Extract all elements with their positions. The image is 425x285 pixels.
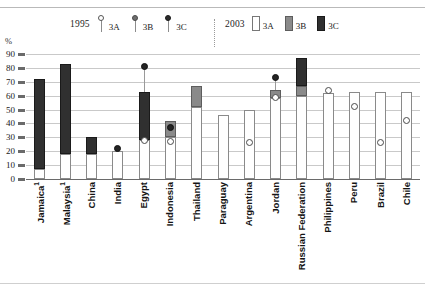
bar-segment-3A — [86, 154, 97, 179]
legend-group-2003: 2003 3A 3B 3C — [225, 9, 350, 38]
y-tick-mark-50 — [18, 109, 25, 112]
data-point-p1995_3A[interactable] — [272, 94, 279, 101]
x-label-china: China — [87, 182, 97, 208]
bottom-divider — [0, 283, 425, 284]
bar-china[interactable] — [86, 54, 97, 179]
bar-segment-3A — [139, 140, 150, 179]
bar-paraguay[interactable] — [218, 54, 229, 179]
bar-brazil[interactable] — [375, 54, 386, 179]
x-label-paraguay: Paraguay — [218, 182, 228, 225]
legend-item-1995-3C[interactable]: 3C — [164, 15, 187, 32]
bar-jamaica[interactable] — [34, 54, 45, 179]
bar-segment-3A — [296, 96, 307, 179]
y-tick-label-40: 40 — [0, 119, 15, 128]
bar-malaysia[interactable] — [60, 54, 71, 179]
bar-segment-3A — [60, 154, 71, 179]
y-tick-mark-20 — [18, 150, 25, 153]
open-circle-icon — [97, 15, 106, 32]
bar-russianfederation[interactable] — [296, 54, 307, 179]
bar-philippines[interactable] — [323, 54, 334, 179]
legend-item-1995-3B[interactable]: 3B — [131, 15, 154, 32]
bar-segment-3C — [139, 92, 150, 141]
y-tick-mark-60 — [18, 95, 25, 98]
legend-item-2003-3B[interactable]: 3B — [285, 16, 307, 31]
bar-segment-3B — [296, 86, 307, 96]
y-tick-mark-80 — [18, 67, 25, 70]
y-tick-mark-10 — [18, 164, 25, 167]
bar-argentina[interactable] — [244, 54, 255, 179]
data-point-p1995_3A[interactable] — [141, 137, 148, 144]
y-tick-label-20: 20 — [0, 147, 15, 156]
x-label-malaysia: Malaysia1 — [60, 182, 72, 225]
y-tick-label-60: 60 — [0, 92, 15, 101]
legend-label-2003-3C: 3C — [328, 21, 339, 31]
x-axis-category-labels: Jamaica1Malaysia1ChinaIndiaEgyptIndonesi… — [26, 182, 420, 285]
chart-root: 1995 3A 3B 3C 2003 — [0, 0, 425, 285]
grey-circle-icon — [131, 15, 140, 32]
dark-bar-icon — [317, 16, 325, 31]
bar-segment-3A — [218, 115, 229, 179]
legend-year-1995: 1995 — [70, 19, 90, 29]
x-label-peru: Peru — [349, 182, 359, 203]
y-tick-label-70: 70 — [0, 78, 15, 87]
data-point-p1995_3A[interactable] — [167, 138, 174, 145]
legend-label-1995-3C: 3C — [176, 22, 187, 32]
bar-segment-3B — [191, 86, 202, 107]
legend-label-2003-3A: 3A — [263, 21, 274, 31]
legend-item-2003-3C[interactable]: 3C — [317, 16, 339, 31]
x-label-brazil: Brazil — [376, 182, 386, 208]
legend-label-1995-3A: 3A — [109, 22, 120, 32]
data-point-p1995_3C[interactable] — [141, 63, 148, 70]
x-label-chile: Chile — [402, 182, 412, 205]
y-tick-mark-30 — [18, 136, 25, 139]
bar-segment-3A — [270, 98, 281, 179]
y-tick-label-90: 90 — [0, 50, 15, 59]
x-label-india: India — [113, 182, 123, 204]
y-axis-unit-label: % — [5, 36, 12, 46]
y-tick-label-50: 50 — [0, 106, 15, 115]
dark-circle-icon — [164, 15, 173, 32]
bar-segment-3A — [375, 92, 386, 180]
legend-year-2003: 2003 — [225, 19, 245, 29]
plot-area: 0102030405060708090 — [26, 54, 420, 179]
legend-item-2003-3A[interactable]: 3A — [252, 16, 274, 31]
bar-segment-3C — [86, 137, 97, 154]
legend-item-1995-3A[interactable]: 3A — [97, 15, 120, 32]
white-bar-icon — [252, 16, 260, 31]
y-tick-mark-40 — [18, 122, 25, 125]
bar-india[interactable] — [112, 54, 123, 179]
bar-segment-3A — [323, 93, 334, 179]
legend-label-2003-3B: 3B — [296, 21, 307, 31]
data-point-p1995_3A[interactable] — [325, 87, 332, 94]
x-label-egypt: Egypt — [139, 182, 149, 208]
gridline-0 — [26, 179, 420, 180]
data-point-p1995_3C[interactable] — [167, 124, 174, 131]
bar-segment-3C — [296, 58, 307, 86]
y-tick-mark-90 — [18, 53, 25, 56]
x-label-jamaica: Jamaica1 — [34, 182, 46, 223]
y-tick-mark-0 — [18, 178, 25, 181]
legend-divider — [214, 19, 215, 47]
y-tick-label-80: 80 — [0, 64, 15, 73]
x-label-philippines: Philippines — [323, 182, 333, 233]
bar-peru[interactable] — [349, 54, 360, 179]
y-tick-label-30: 30 — [0, 133, 15, 142]
bar-indonesia[interactable] — [165, 54, 176, 179]
x-label-jordan: Jordan — [271, 182, 281, 214]
x-label-indonesia: Indonesia — [165, 182, 175, 226]
bar-segment-3A — [112, 151, 123, 179]
bar-thailand[interactable] — [191, 54, 202, 179]
clipped-title — [0, 0, 425, 7]
y-tick-label-0: 0 — [0, 175, 15, 184]
chart-legend: 1995 3A 3B 3C 2003 — [0, 9, 425, 38]
grey-bar-icon — [285, 16, 293, 31]
legend-label-1995-3B: 3B — [143, 22, 154, 32]
x-label-thailand: Thailand — [192, 182, 202, 221]
x-label-russianfederation: Russian Federation — [297, 182, 307, 270]
x-label-argentina: Argentina — [244, 182, 254, 226]
bar-jordan[interactable] — [270, 54, 281, 179]
bar-segment-3A — [401, 92, 412, 180]
bar-segment-3C — [60, 64, 71, 154]
legend-group-1995: 1995 3A 3B 3C — [70, 9, 198, 38]
y-tick-label-10: 10 — [0, 161, 15, 170]
